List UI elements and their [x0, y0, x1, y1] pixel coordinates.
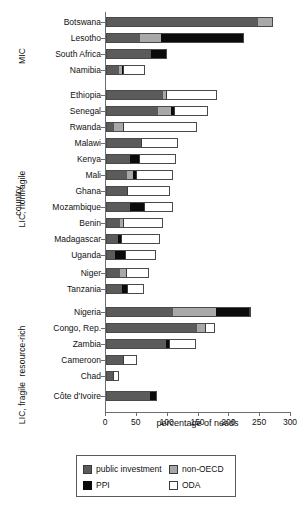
bar-segment-non-oecd: [258, 17, 273, 27]
bar-row: [106, 65, 145, 75]
bar-segment-public-investment: [106, 307, 173, 317]
bar-segment-public-investment: [106, 186, 127, 196]
bar-segment-public-investment: [106, 49, 151, 59]
bar-segment-public-investment: [106, 154, 130, 164]
bar-row: [106, 307, 251, 317]
legend-label-oda: ODA: [182, 480, 200, 490]
legend-item-public-investment: public investment: [83, 464, 169, 474]
bar-row: [106, 49, 167, 59]
bar-segment-public-investment: [106, 65, 119, 75]
y-tick-label: Ghana: [3, 187, 101, 196]
bar-segment-public-investment: [106, 234, 118, 244]
bar-segment-oda: [123, 65, 145, 75]
bar-segment-oda: [139, 154, 176, 164]
bar-segment-public-investment: [106, 218, 120, 228]
x-tick: [167, 412, 168, 416]
bar-segment-public-investment: [106, 355, 123, 365]
legend: public investment non-OECD PPI ODA: [76, 455, 236, 497]
y-tick-label: Uganda: [3, 251, 101, 260]
legend-item-non-oecd: non-OECD: [169, 464, 224, 474]
bar-segment-ppi: [150, 391, 157, 401]
bar-segment-non-oecd: [114, 122, 123, 132]
y-tick-label: Zambia: [3, 340, 101, 349]
y-tick-label: Lesotho: [3, 34, 101, 43]
chart-figure: country MICLIC, nonfragileresource-richL…: [0, 0, 305, 507]
bar-segment-public-investment: [106, 268, 120, 278]
bar-row: [106, 170, 173, 180]
y-tick: [101, 312, 105, 313]
bar-row: [106, 122, 197, 132]
bar-segment-public-investment: [106, 106, 158, 116]
bar-row: [106, 202, 173, 212]
y-tick-label: Mali: [3, 171, 101, 180]
y-tick: [101, 38, 105, 39]
bar-segment-ppi: [130, 154, 139, 164]
bar-segment-non-oecd: [197, 323, 205, 333]
plot-area: BotswanaLesothoSouth AfricaNamibiaEthiop…: [105, 12, 290, 412]
bar-row: [106, 234, 160, 244]
y-tick-label: Tanzania: [3, 285, 101, 294]
y-tick: [101, 273, 105, 274]
y-tick: [101, 396, 105, 397]
bar-segment-oda: [123, 122, 197, 132]
bar-segment-public-investment: [106, 391, 150, 401]
bar-segment-oda: [144, 202, 173, 212]
y-tick: [101, 95, 105, 96]
bar-row: [106, 268, 149, 278]
bar-segment-public-investment: [106, 284, 122, 294]
bar-row: [106, 17, 272, 27]
bar-segment-non-oecd: [140, 33, 161, 43]
bar-segment-public-investment: [106, 33, 140, 43]
bar-segment-ppi: [130, 202, 144, 212]
y-tick: [101, 159, 105, 160]
bar-row: [106, 355, 137, 365]
y-tick: [101, 111, 105, 112]
bar-row: [106, 33, 243, 43]
bar-segment-non-oecd: [158, 106, 171, 116]
bar-segment-public-investment: [106, 122, 114, 132]
bar-segment-non-oecd: [173, 307, 216, 317]
y-tick: [101, 344, 105, 345]
bar-row: [106, 371, 119, 381]
legend-swatch-icon-oda: [169, 481, 178, 490]
bar-row: [106, 154, 176, 164]
y-tick: [101, 328, 105, 329]
legend-label-ppi: PPI: [96, 480, 110, 490]
y-tick: [101, 22, 105, 23]
y-tick-label: Mozambique: [3, 203, 101, 212]
legend-row: public investment non-OECD: [83, 461, 229, 477]
bar-segment-oda: [121, 234, 159, 244]
bar-row: [106, 138, 178, 148]
bar-segment-ppi: [161, 33, 244, 43]
x-tick: [259, 412, 260, 416]
y-tick: [101, 70, 105, 71]
y-tick-label: Rwanda: [3, 123, 101, 132]
x-tick: [290, 412, 291, 416]
y-tick-label: Cameroon: [3, 356, 101, 365]
legend-swatch-icon-ppi: [83, 481, 92, 490]
bar-row: [106, 250, 156, 260]
legend-item-oda: ODA: [169, 480, 200, 490]
legend-swatch-icon-public-investment: [83, 465, 92, 474]
bar-segment-oda: [141, 138, 178, 148]
x-tick: [228, 412, 229, 416]
bar-segment-public-investment: [106, 17, 258, 27]
bar-segment-oda: [174, 106, 208, 116]
y-tick-label: Côte d'Ivoire: [3, 392, 101, 401]
x-axis-title: percentage of needs: [105, 418, 290, 428]
y-tick-label: Botswana: [3, 18, 101, 27]
bar-segment-oda: [169, 339, 196, 349]
bar-segment-ppi: [151, 49, 167, 59]
y-tick-label: Madagascar: [3, 235, 101, 244]
bar-segment-oda: [126, 268, 148, 278]
bar-segment-oda: [136, 170, 173, 180]
y-tick: [101, 143, 105, 144]
bar-row: [106, 186, 170, 196]
y-tick-label: Niger: [3, 269, 101, 278]
y-tick: [101, 207, 105, 208]
y-tick-label: Namibia: [3, 66, 101, 75]
y-tick: [101, 191, 105, 192]
legend-label-non-oecd: non-OECD: [182, 464, 224, 474]
y-tick-label: Kenya: [3, 155, 101, 164]
bar-segment-oda: [166, 90, 217, 100]
